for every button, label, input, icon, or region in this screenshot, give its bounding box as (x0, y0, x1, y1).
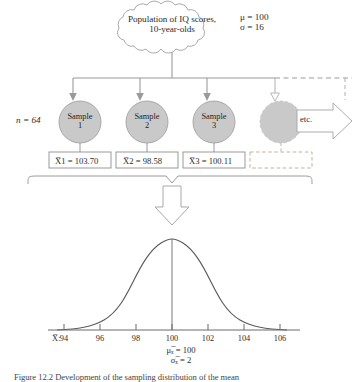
to-distribution-arrow (155, 186, 189, 225)
population-mu-label: μ = 100 (240, 12, 268, 22)
sample-circle-label-2-line2: 2 (124, 122, 170, 131)
x-tick-label-100: 100 (161, 334, 183, 343)
x-tick-label-102: 102 (197, 334, 219, 343)
x-tick-label-98: 98 (125, 334, 147, 343)
sample-circle-label-1-line2: 1 (57, 122, 103, 131)
xbar-value-2: X̅2 = 98.58 (123, 156, 162, 166)
sampling-distribution-parameters: μₓ̅ = 100 σₓ̅ = 2 (128, 346, 234, 366)
x-tick-label-96: 96 (89, 334, 111, 343)
figure-caption: Figure 12.2 Development of the sampling … (14, 372, 354, 382)
sampling-distribution-figure (0, 0, 362, 382)
convergence-brace (28, 176, 312, 184)
x-axis-ticks (64, 324, 280, 330)
x-tick-label-94: 94 (53, 334, 75, 343)
branch-arrow-1 (69, 78, 77, 101)
branch-arrow-3 (203, 78, 211, 101)
xbar-value-1: X̅1 = 103.70 (55, 156, 98, 166)
sample-size-label: n = 64 (16, 115, 41, 125)
population-label-line1: Population of IQ scores, (128, 14, 216, 24)
etc-label: etc. (300, 115, 312, 125)
x-tick-label-104: 104 (233, 334, 255, 343)
population-parameters: μ = 100 σ = 16 (240, 12, 268, 33)
branch-arrow-2 (136, 78, 144, 101)
xbar-box-4-placeholder (250, 152, 312, 168)
sample-circle-label-3-line2: 3 (191, 122, 237, 131)
sample-circle-label-1: Sample 1 (57, 113, 103, 131)
x-tick-label-106: 106 (269, 334, 291, 343)
population-sigma-label: σ = 16 (240, 22, 268, 32)
sample-circle-label-3: Sample 3 (191, 113, 237, 131)
population-label: Population of IQ scores, 10-year-olds (116, 14, 228, 35)
xbar-value-3: X̅3 = 100.11 (189, 156, 232, 166)
population-label-line2: 10-year-olds (116, 24, 228, 34)
sampling-sigma-label: σₓ̅ = 2 (128, 356, 234, 366)
branch-arrow-4-hollow (271, 78, 280, 101)
sample-circle-label-2: Sample 2 (124, 113, 170, 131)
sample-circle-4-placeholder (260, 101, 302, 143)
